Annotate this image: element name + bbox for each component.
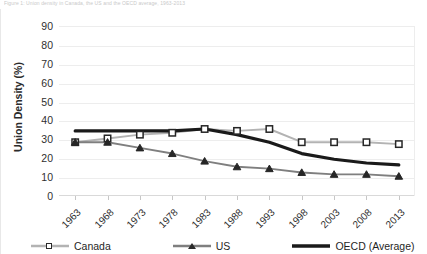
x-tick-mark xyxy=(75,196,76,200)
y-tick-label: 20 xyxy=(27,153,53,163)
x-tick-label: 1968 xyxy=(86,207,115,236)
figure-caption: Figure 1: Union density in Canada, the U… xyxy=(4,0,304,9)
legend-label-canada: Canada xyxy=(74,240,111,252)
legend-item-oecd[interactable]: OECD (Average) xyxy=(292,240,414,252)
chart-legend: Canada US OECD (Average) xyxy=(31,237,421,254)
y-tick-label: 70 xyxy=(27,59,53,69)
legend-item-canada[interactable]: Canada xyxy=(31,240,111,252)
y-tick-label: 40 xyxy=(27,115,53,125)
x-tick-mark xyxy=(108,196,109,200)
y-tick-label: 30 xyxy=(27,134,53,144)
x-tick-label: 1978 xyxy=(151,207,180,236)
square-marker-icon xyxy=(234,128,240,134)
chart-frame: Union Density (%) 9080706050403020100 19… xyxy=(0,9,427,254)
x-tick-label: 2003 xyxy=(313,207,342,236)
legend-line-oecd xyxy=(292,244,330,249)
x-tick-mark xyxy=(205,196,206,200)
square-marker-icon xyxy=(169,130,175,136)
triangle-marker-icon xyxy=(188,243,196,249)
x-tick-label: 1973 xyxy=(119,207,148,236)
y-tick-label: 10 xyxy=(27,172,53,182)
legend-label-us: US xyxy=(216,240,231,252)
legend-swatch-oecd xyxy=(292,240,330,252)
x-tick-label: 1983 xyxy=(184,207,213,236)
square-marker-icon xyxy=(266,126,272,132)
legend-item-us[interactable]: US xyxy=(173,240,231,252)
x-tick-mark xyxy=(269,196,270,200)
x-tick-mark xyxy=(399,196,400,200)
series-line-us xyxy=(75,142,399,176)
y-tick-label: 80 xyxy=(27,40,53,50)
x-tick-mark xyxy=(302,196,303,200)
plot-area xyxy=(59,26,415,196)
square-marker-icon xyxy=(363,139,369,145)
x-tick-label: 1988 xyxy=(216,207,245,236)
legend-swatch-us xyxy=(173,240,211,252)
square-marker-icon xyxy=(46,243,52,249)
y-tick-label: 0 xyxy=(27,191,53,201)
x-tick-mark xyxy=(140,196,141,200)
square-marker-icon xyxy=(396,141,402,147)
square-marker-icon xyxy=(137,131,143,137)
y-axis-title: Union Density (%) xyxy=(12,37,24,177)
square-marker-icon xyxy=(201,126,207,132)
x-tick-label: 1963 xyxy=(54,207,83,236)
x-tick-label: 2008 xyxy=(345,207,374,236)
square-marker-icon xyxy=(299,139,305,145)
x-tick-label: 2013 xyxy=(378,207,407,236)
y-tick-label: 90 xyxy=(27,21,53,31)
x-tick-mark xyxy=(237,196,238,200)
x-tick-mark xyxy=(366,196,367,200)
y-tick-label: 60 xyxy=(27,78,53,88)
legend-swatch-canada xyxy=(31,240,69,252)
series-lines xyxy=(59,27,415,197)
legend-label-oecd: OECD (Average) xyxy=(335,240,414,252)
x-tick-label: 1998 xyxy=(281,207,310,236)
square-marker-icon xyxy=(331,139,337,145)
x-tick-label: 1993 xyxy=(248,207,277,236)
y-tick-label: 50 xyxy=(27,97,53,107)
x-tick-mark xyxy=(172,196,173,200)
x-tick-mark xyxy=(334,196,335,200)
